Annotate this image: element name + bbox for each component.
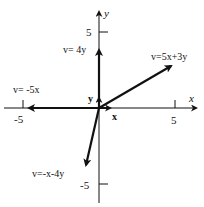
vector-label-4y: v= 4y [63,44,86,55]
y-tick-label-5: 5 [86,26,92,38]
vector-diagram: -5 5 5 -5 x y y x v= 4y v=5x+3y v= -5x v… [0,0,204,207]
vector-negx-neg4y [86,108,99,165]
vector-label-neg5x: v= -5x [13,84,39,95]
basis-y-label: y [88,93,93,104]
vector-label-5x-plus-3y: v=5x+3y [151,51,187,62]
basis-x-label: x [112,111,117,122]
x-tick-label-neg5: -5 [14,113,24,125]
y-axis-label: y [103,7,109,19]
vector-label-negx-neg4y: v=-x-4y [32,168,64,179]
x-tick-label-5: 5 [171,114,177,126]
x-axis-label: x [188,92,194,104]
vector-5x-plus-3y [99,66,171,108]
y-tick-label-neg5: -5 [80,179,90,191]
